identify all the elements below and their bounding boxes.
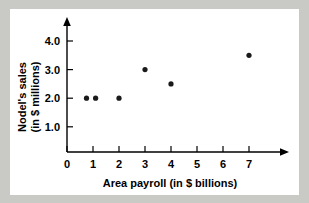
data-point [84,96,89,101]
scatter-plot: 1.0 2.0 3.0 4.0 0 1 2 3 4 5 6 7 [10,9,299,195]
y-axis-title-line1: Nodel's sales [16,62,28,132]
x-tick-label-7: 7 [246,158,252,170]
x-tick-label-5: 5 [194,158,200,170]
x-tick-label-2: 2 [116,158,122,170]
y-axis-tick-labels: 1.0 2.0 3.0 4.0 [45,35,60,133]
figure-card: 1.0 2.0 3.0 4.0 0 1 2 3 4 5 6 7 [10,9,299,195]
data-point [168,81,173,86]
data-point [142,67,147,72]
y-tick-label-1: 1.0 [45,121,60,133]
x-axis-ticks [67,146,249,152]
data-point [116,96,121,101]
x-tick-label-4: 4 [168,158,175,170]
data-point [246,53,251,58]
y-tick-label-2: 2.0 [45,92,60,104]
x-tick-label-0: 0 [64,158,70,170]
x-axis-title: Area payroll (in $ billions) [103,177,238,189]
x-axis-tick-labels: 0 1 2 3 4 5 6 7 [64,158,252,170]
x-tick-label-6: 6 [220,158,226,170]
y-axis-ticks [67,41,73,127]
y-tick-label-4: 4.0 [45,35,60,47]
data-points [84,53,252,101]
y-axis-arrow-icon [63,17,71,26]
y-tick-label-3: 3.0 [45,64,60,76]
data-point [93,96,98,101]
x-axis-arrow-icon [280,148,289,156]
x-tick-label-3: 3 [142,158,148,170]
x-tick-label-1: 1 [90,158,96,170]
y-axis-title: Nodel's sales (in $ millions) [16,61,41,132]
y-axis-title-line2: (in $ millions) [29,61,41,132]
